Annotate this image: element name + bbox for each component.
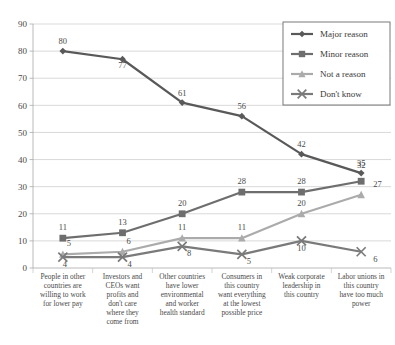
x-axis-category-label-line: at the lowest <box>223 299 261 308</box>
data-point-label: 42 <box>297 139 306 149</box>
data-point-label: 20 <box>297 198 306 208</box>
legend-label: Major reason <box>320 29 368 39</box>
data-point-label: 56 <box>238 101 247 111</box>
data-point-marker <box>238 189 245 196</box>
y-axis-tick-label: 50 <box>18 128 28 138</box>
x-axis-category-label-line: this country <box>284 290 319 299</box>
x-axis-category-label-line: have lower <box>166 281 199 290</box>
x-axis-category-label-line: Labor unions in <box>338 272 385 281</box>
data-point-label: 28 <box>238 176 247 186</box>
x-axis-category-label-line: leadership in <box>283 281 321 290</box>
series-line <box>63 241 361 257</box>
x-axis-category-label-line: environmental <box>161 290 204 299</box>
x-axis-category-label-line: willing to work <box>40 290 86 299</box>
legend: Major reasonMinor reasonNot a reasonDon'… <box>283 22 390 105</box>
x-axis-category-label-line: profits and <box>107 290 139 299</box>
x-axis-category-label-line: don't care <box>108 299 137 308</box>
data-point-label: 27 <box>373 179 382 189</box>
data-point-label: 6 <box>373 254 377 264</box>
x-axis-category-label-line: Weak corporate <box>278 272 325 281</box>
line-chart: 0102030405060708090807761564235111320282… <box>0 0 395 345</box>
data-point-label: 11 <box>238 222 246 232</box>
y-axis-tick-label: 60 <box>18 101 28 111</box>
x-axis-category-label-line: People in other <box>40 272 85 281</box>
data-point-label: 11 <box>59 222 67 232</box>
y-axis-tick-label: 70 <box>18 73 28 83</box>
y-axis-tick-label: 40 <box>18 155 28 165</box>
series-minor-reason: 111320282832 <box>59 160 366 241</box>
legend-label: Don't know <box>320 89 362 99</box>
x-axis-category-label-line: power <box>352 299 371 308</box>
data-point-label: 6 <box>126 236 130 246</box>
data-point-marker <box>358 178 365 185</box>
x-axis-category-label-line: health standard <box>160 308 205 317</box>
data-point-label: 5 <box>67 238 71 248</box>
data-point-marker <box>358 170 365 177</box>
x-axis-category-labels: People in othercountries arewilling to w… <box>40 272 385 326</box>
y-axis-tick-label: 0 <box>23 263 28 273</box>
x-axis-category-label-line: come from <box>106 317 138 326</box>
legend-label: Not a reason <box>320 69 366 79</box>
data-point-label: 80 <box>59 36 68 46</box>
y-axis-tick-label: 90 <box>18 19 28 29</box>
x-axis-category-label-line: CEOs want <box>106 281 141 290</box>
data-point-label: 5 <box>247 256 251 266</box>
x-axis-category-label-line: for lower pay <box>43 299 83 308</box>
data-point-label: 4 <box>63 259 68 269</box>
data-point-marker <box>299 51 305 57</box>
data-point-label: 13 <box>118 217 127 227</box>
x-axis-category-label-line: and worker <box>165 299 199 308</box>
data-point-label: 8 <box>187 248 191 258</box>
chart-container: 0102030405060708090807761564235111320282… <box>0 0 395 345</box>
data-point-marker <box>298 189 305 196</box>
x-axis-category-label-line: have too much <box>339 290 383 299</box>
x-axis-category-label-line: possible price <box>221 308 263 317</box>
data-point-label: 10 <box>297 243 306 253</box>
data-point-marker <box>59 48 66 55</box>
data-point-label: 28 <box>297 176 306 186</box>
y-axis-tick-label: 80 <box>18 46 28 56</box>
x-axis-category-label-line: this country <box>344 281 379 290</box>
x-axis-category-label-line: countries are <box>44 281 83 290</box>
data-point-label: 61 <box>178 88 187 98</box>
x-axis-category-label-line: want everything <box>218 290 266 299</box>
x-axis-category-label-line: Investors and <box>103 272 143 281</box>
data-point-marker <box>179 210 186 217</box>
data-point-label: 77 <box>118 60 127 70</box>
data-point-marker <box>119 229 126 236</box>
x-axis-category-label-line: this country <box>224 281 259 290</box>
x-axis-category-label-line: Consumers in <box>221 272 262 281</box>
data-point-marker <box>59 235 66 242</box>
y-axis-tick-label: 30 <box>18 182 28 192</box>
y-axis-tick-label: 10 <box>18 236 28 246</box>
x-axis-category-label-line: where they <box>106 308 139 317</box>
y-axis-tick-label: 20 <box>18 209 28 219</box>
x-axis-category-label-line: Other countries <box>159 272 205 281</box>
legend-label: Minor reason <box>320 49 369 59</box>
data-point-label: 11 <box>178 222 186 232</box>
data-point-label: 20 <box>178 198 187 208</box>
data-point-label: 32 <box>357 160 366 170</box>
